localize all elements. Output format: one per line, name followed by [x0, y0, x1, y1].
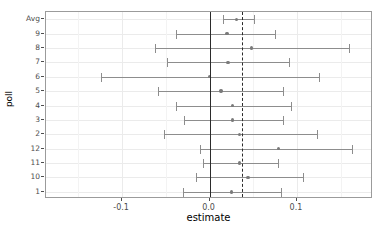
y-tick-mark — [41, 176, 44, 177]
y-tick-label: 2 — [4, 129, 40, 138]
y-tick-label: 10 — [4, 172, 40, 181]
error-bar-cap-high — [291, 102, 292, 111]
x-tick-mark — [296, 198, 297, 201]
estimate-point — [246, 176, 249, 179]
error-bar-cap-low — [176, 30, 177, 39]
error-bar-cap-low — [200, 145, 201, 154]
estimate-point — [238, 133, 241, 136]
error-bar-cap-high — [303, 173, 304, 182]
y-tick-label: 12 — [4, 143, 40, 152]
error-bar-cap-high — [352, 145, 353, 154]
gridline-vertical — [122, 12, 123, 197]
y-tick-label: Avg — [4, 14, 40, 23]
estimate-point — [219, 89, 222, 92]
estimate-point — [230, 190, 233, 193]
y-tick-label: 5 — [4, 86, 40, 95]
gridline-vertical-minor — [78, 12, 79, 197]
error-bar-cap-high — [283, 116, 284, 125]
y-tick-label: 1 — [4, 186, 40, 195]
estimate-point — [226, 61, 229, 64]
gridline-vertical-minor — [166, 12, 167, 197]
mean-line — [242, 12, 243, 197]
error-bar-cap-high — [349, 44, 350, 53]
error-bar-cap-high — [281, 188, 282, 197]
error-bar-cap-low — [203, 159, 204, 168]
error-bar-cap-low — [164, 130, 165, 139]
error-bar-cap-low — [223, 15, 224, 24]
error-bar-cap-low — [196, 173, 197, 182]
error-bar-cap-low — [101, 73, 102, 82]
estimate-point — [231, 118, 234, 121]
estimate-point — [231, 104, 234, 107]
y-tick-mark — [41, 119, 44, 120]
gridline-horizontal — [46, 19, 371, 20]
y-tick-label: 7 — [4, 57, 40, 66]
x-tick-label: -0.1 — [101, 203, 141, 212]
x-tick-mark — [121, 198, 122, 201]
error-bar-cap-low — [158, 87, 159, 96]
y-tick-mark — [41, 18, 44, 19]
plot-panel — [45, 11, 372, 198]
forest-plot: poll Avg987654321211101 -0.10.00.1 estim… — [0, 0, 382, 229]
estimate-point — [235, 18, 238, 21]
y-tick-label: 4 — [4, 100, 40, 109]
y-tick-mark — [41, 105, 44, 106]
y-tick-mark — [41, 61, 44, 62]
estimate-point — [277, 147, 280, 150]
x-axis-title: estimate — [45, 212, 372, 223]
error-bar-cap-high — [278, 159, 279, 168]
error-bar — [200, 149, 352, 150]
y-tick-label: 3 — [4, 114, 40, 123]
estimate-point — [225, 32, 228, 35]
error-bar-cap-low — [184, 116, 185, 125]
error-bar-cap-low — [155, 44, 156, 53]
estimate-point — [238, 161, 241, 164]
y-tick-mark — [41, 133, 44, 134]
y-tick-mark — [41, 148, 44, 149]
y-tick-label: 9 — [4, 28, 40, 37]
y-tick-label: 8 — [4, 42, 40, 51]
error-bar-cap-high — [283, 87, 284, 96]
y-tick-mark — [41, 191, 44, 192]
estimate-point — [250, 46, 253, 49]
error-bar — [196, 177, 303, 178]
error-bar-cap-high — [275, 30, 276, 39]
error-bar-cap-high — [289, 58, 290, 67]
y-tick-label: 6 — [4, 71, 40, 80]
error-bar-cap-high — [317, 130, 318, 139]
y-tick-label: 11 — [4, 158, 40, 167]
error-bar-cap-high — [319, 73, 320, 82]
gridline-vertical — [297, 12, 298, 197]
y-tick-mark — [41, 162, 44, 163]
gridline-vertical-minor — [253, 12, 254, 197]
error-bar-cap-low — [183, 188, 184, 197]
zero-line — [210, 12, 212, 197]
y-tick-mark — [41, 33, 44, 34]
error-bar-cap-low — [167, 58, 168, 67]
gridline-vertical-minor — [341, 12, 342, 197]
y-tick-mark — [41, 47, 44, 48]
y-tick-mark — [41, 76, 44, 77]
error-bar — [223, 19, 254, 20]
x-tick-mark — [209, 198, 210, 201]
y-tick-mark — [41, 90, 44, 91]
error-bar-cap-high — [254, 15, 255, 24]
x-tick-label: 0.0 — [189, 203, 229, 212]
error-bar-cap-low — [176, 102, 177, 111]
x-tick-label: 0.1 — [276, 203, 316, 212]
